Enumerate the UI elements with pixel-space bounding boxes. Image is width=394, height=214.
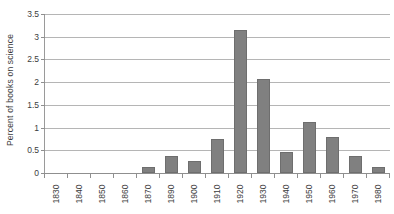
bar[interactable] [303,122,316,173]
x-axis-tick-label: 1850 [90,178,113,214]
x-axis-tick-label-text: 1840 [74,185,84,204]
bars-group [45,14,390,173]
y-axis-tick-label: 0 [34,168,39,178]
bar[interactable] [349,156,362,173]
bar[interactable] [326,137,339,173]
y-axis-title: Percent of books on science [0,0,20,180]
bar-slot [160,14,183,173]
bar-slot [183,14,206,173]
x-axis-tick-label-text: 1930 [258,185,268,204]
bar-chart: Percent of books on science 00.511.522.5… [0,0,394,214]
x-axis-tick-label: 1950 [297,178,320,214]
x-axis-tick-label-text: 1910 [212,185,222,204]
x-axis-tick-label-text: 1960 [327,185,337,204]
x-axis-tick-label: 1890 [159,178,182,214]
bar-slot [114,14,137,173]
bar-slot [206,14,229,173]
y-axis-tick-labels: 00.511.522.533.5 [18,0,42,180]
plot-area [44,14,390,173]
y-axis-tick-label: 2 [34,77,39,87]
x-axis-tick-label: 1840 [67,178,90,214]
bar-slot [367,14,390,173]
x-axis-tick-label: 1920 [228,178,251,214]
x-axis-tick-label-text: 1920 [235,185,245,204]
bar-slot [45,14,68,173]
x-axis-tick-label-text: 1890 [166,185,176,204]
bar[interactable] [165,156,178,173]
x-axis-tickmark [389,174,390,178]
y-axis-tick-label: 0.5 [27,145,39,155]
x-axis-tick-label-text: 1950 [304,185,314,204]
bar[interactable] [257,79,270,173]
bar-slot [298,14,321,173]
bar-slot [275,14,298,173]
y-axis-tick-label: 3 [34,32,39,42]
bar-slot [68,14,91,173]
bar-slot [137,14,160,173]
x-axis-tick-label: 1930 [251,178,274,214]
bar[interactable] [188,161,201,173]
x-axis-tick-label-text: 1860 [120,185,130,204]
x-axis-tick-label: 1830 [44,178,67,214]
bar-slot [252,14,275,173]
y-axis-title-label: Percent of books on science [5,34,15,146]
y-axis-tick-label: 1.5 [27,100,39,110]
x-axis-tick-label: 1860 [113,178,136,214]
x-axis-tick-label: 1960 [320,178,343,214]
x-axis-tick-labels: 1830184018501860187018901900191019201930… [44,178,389,214]
x-axis-tick-label-text: 1830 [51,185,61,204]
bar[interactable] [234,30,247,173]
x-axis-tick-label: 1900 [182,178,205,214]
x-axis-tick-label: 1970 [343,178,366,214]
bar-slot [229,14,252,173]
x-axis-tick-label: 1940 [274,178,297,214]
bar[interactable] [211,139,224,173]
x-axis-tick-label: 1870 [136,178,159,214]
bar-slot [321,14,344,173]
x-axis-tick-label-text: 1850 [97,185,107,204]
y-axis-tick-label: 3.5 [27,9,39,19]
x-axis-tick-label-text: 1980 [373,185,383,204]
y-axis-tick-label: 1 [34,123,39,133]
x-axis-tick-label-text: 1900 [189,185,199,204]
bar-slot [91,14,114,173]
x-axis-tick-label-text: 1940 [281,185,291,204]
x-axis-tick-label-text: 1970 [350,185,360,204]
y-axis-tick-label: 2.5 [27,54,39,64]
x-axis-tick-label: 1980 [366,178,389,214]
x-axis-tick-label-text: 1870 [143,185,153,204]
bar-slot [344,14,367,173]
x-axis-tick-label: 1910 [205,178,228,214]
bar[interactable] [280,152,293,173]
